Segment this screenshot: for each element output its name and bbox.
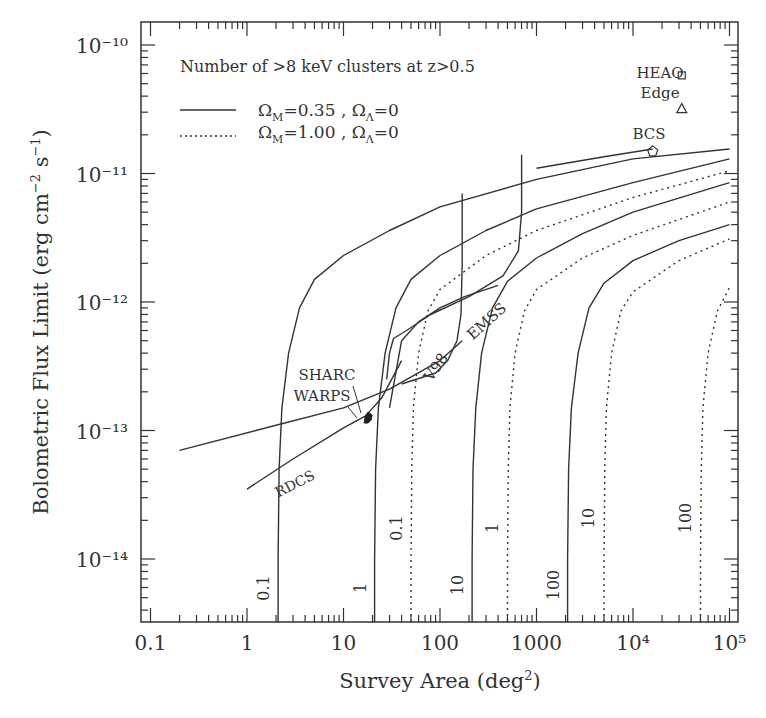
legend-entry-dotted: ΩM=1.00 , ΩΛ=0 xyxy=(258,122,399,146)
survey-curve-v98 xyxy=(390,285,499,408)
model-curve xyxy=(411,171,730,622)
model-curve xyxy=(278,149,729,622)
curve-count-label: 0.1 xyxy=(254,575,273,600)
model-curves xyxy=(278,149,729,622)
edge-label: Edge xyxy=(640,84,679,102)
emss-label: EMSS xyxy=(463,299,510,344)
curve-count-label: 100 xyxy=(544,570,563,601)
bcs-marker-icon xyxy=(648,146,658,156)
x-tick-label: 10 xyxy=(331,631,356,655)
legend-title: Number of >8 keV clusters at z>0.5 xyxy=(180,57,475,76)
curve-count-label: 1 xyxy=(351,583,370,593)
x-axis-title: Survey Area (deg2) xyxy=(339,668,541,693)
x-tick-label: 1000 xyxy=(511,631,562,655)
legend: Number of >8 keV clusters at z>0.5 ΩM=0.… xyxy=(180,57,475,146)
y-tick-label: 10⁻¹² xyxy=(76,291,128,315)
x-tick-label: 10⁴ xyxy=(616,631,649,655)
model-curve xyxy=(701,287,730,622)
model-curve xyxy=(375,159,730,622)
model-curve xyxy=(472,183,729,622)
curve-count-label: 10 xyxy=(579,508,598,528)
sharc-label: SHARC xyxy=(299,366,356,384)
survey-curve-v98-edge xyxy=(402,193,463,384)
x-axis-tick-labels: 0.1110100100010⁴10⁵ xyxy=(135,631,747,655)
sharc-pointer xyxy=(353,386,361,413)
curve-count-label: 100 xyxy=(676,503,695,534)
plot-frame xyxy=(141,22,738,622)
x-axis-ticks xyxy=(151,22,730,622)
heao-label: HEAO xyxy=(636,64,683,82)
flux-limit-chart: 0.1110100100010⁴10⁵ 10⁻¹⁴10⁻¹³10⁻¹²10⁻¹¹… xyxy=(0,0,766,718)
y-axis-title: Bolometric Flux Limit (erg cm−2 s−1) xyxy=(28,129,53,515)
y-tick-label: 10⁻¹⁴ xyxy=(76,548,128,572)
x-tick-label: 100 xyxy=(421,631,459,655)
curve-count-label: 0.1 xyxy=(387,515,406,540)
legend-entry-solid: ΩM=0.35 , ΩΛ=0 xyxy=(258,100,399,124)
x-tick-label: 10⁵ xyxy=(713,631,746,655)
model-curve xyxy=(604,239,730,622)
y-axis-tick-labels: 10⁻¹⁴10⁻¹³10⁻¹²10⁻¹¹10⁻¹⁰ xyxy=(76,34,128,572)
model-curve xyxy=(568,225,730,622)
sharc-warps-marker-icon xyxy=(364,412,372,423)
y-tick-label: 10⁻¹¹ xyxy=(76,163,128,187)
y-tick-label: 10⁻¹⁰ xyxy=(76,34,128,58)
curve-count-label: 1 xyxy=(483,523,502,533)
model-curve xyxy=(508,202,730,622)
y-tick-label: 10⁻¹³ xyxy=(76,420,128,444)
annotations: SHARCWARPSRDCSV98EMSSHEAOEdgeBCS0.111010… xyxy=(254,64,695,601)
edge-marker-icon xyxy=(677,104,687,113)
curve-count-label: 10 xyxy=(448,575,467,595)
warps-label: WARPS xyxy=(293,387,350,405)
survey-curves xyxy=(180,149,653,489)
x-tick-label: 0.1 xyxy=(135,631,167,655)
bcs-label: BCS xyxy=(632,125,665,143)
x-tick-label: 1 xyxy=(241,631,254,655)
warps-pointer xyxy=(348,407,357,418)
